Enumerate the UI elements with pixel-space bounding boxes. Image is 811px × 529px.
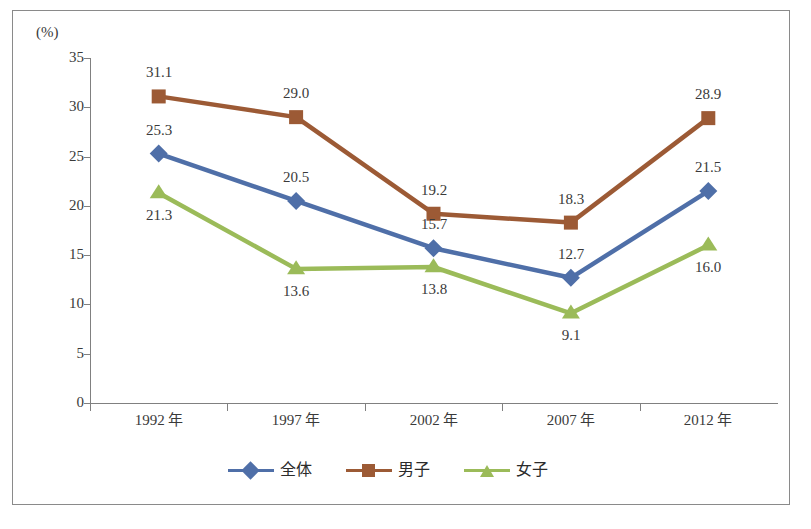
data-point-label: 29.0 xyxy=(266,86,326,101)
figure-frame xyxy=(12,10,790,505)
legend-item-2[interactable]: 男子 xyxy=(346,462,430,478)
x-axis-line xyxy=(90,403,778,404)
x-axis-category-label: 2002 年 xyxy=(364,411,504,431)
data-point-label: 21.5 xyxy=(678,160,738,175)
x-axis-tick xyxy=(502,404,503,411)
x-axis-tick xyxy=(365,404,366,411)
y-axis-tick xyxy=(84,304,91,305)
legend-label: 女子 xyxy=(516,462,548,478)
y-axis-tick-label: 25 xyxy=(42,149,84,164)
y-axis-tick-label: 0 xyxy=(42,395,84,410)
y-axis-tick-label: 35 xyxy=(42,50,84,65)
y-axis-tick xyxy=(84,58,91,59)
y-axis-tick-label: 30 xyxy=(42,99,84,114)
legend-swatch xyxy=(228,462,274,478)
data-point-label: 25.3 xyxy=(129,123,189,138)
legend-swatch xyxy=(464,462,510,478)
data-point-label: 16.0 xyxy=(678,260,738,275)
x-axis-tick xyxy=(90,404,91,411)
x-axis-category-label: 1997 年 xyxy=(226,411,366,431)
y-axis-tick-label: 15 xyxy=(42,247,84,262)
chart-legend: 全体男子女子 xyxy=(228,462,548,478)
data-point-label: 9.1 xyxy=(541,328,601,343)
y-axis-tick xyxy=(84,157,91,158)
y-axis-tick xyxy=(84,255,91,256)
legend-item-3[interactable]: 女子 xyxy=(464,462,548,478)
legend-marker-triangle xyxy=(480,465,494,477)
data-point-label: 13.6 xyxy=(266,284,326,299)
legend-label: 男子 xyxy=(398,462,430,478)
data-point-label: 28.9 xyxy=(678,87,738,102)
x-axis-tick xyxy=(227,404,228,411)
y-axis-line xyxy=(90,58,91,404)
legend-marker-diamond xyxy=(241,461,259,479)
data-point-label: 12.7 xyxy=(541,247,601,262)
legend-marker-square xyxy=(362,464,375,477)
data-point-label: 15.7 xyxy=(404,217,464,232)
legend-swatch xyxy=(346,462,392,478)
y-axis-tick xyxy=(84,206,91,207)
y-axis-tick xyxy=(84,354,91,355)
y-axis-tick-labels: 35302520151050 xyxy=(28,0,84,529)
y-axis-tick xyxy=(84,107,91,108)
data-point-label: 19.2 xyxy=(404,183,464,198)
y-axis-tick-label: 10 xyxy=(42,296,84,311)
x-axis-category-label: 2007 年 xyxy=(501,411,641,431)
data-point-label: 31.1 xyxy=(129,65,189,80)
legend-label: 全体 xyxy=(280,462,312,478)
x-axis-tick xyxy=(640,404,641,411)
data-point-label: 21.3 xyxy=(129,208,189,223)
data-point-label: 18.3 xyxy=(541,192,601,207)
y-axis-tick-label: 20 xyxy=(42,198,84,213)
y-axis-tick-label: 5 xyxy=(42,346,84,361)
data-point-label: 20.5 xyxy=(266,170,326,185)
legend-item-1[interactable]: 全体 xyxy=(228,462,312,478)
chart-figure: (%) 35302520151050 1992 年1997 年2002 年200… xyxy=(0,0,811,529)
data-point-label: 13.8 xyxy=(404,282,464,297)
x-axis-category-label: 1992 年 xyxy=(89,411,229,431)
x-axis-category-label: 2012 年 xyxy=(638,411,778,431)
